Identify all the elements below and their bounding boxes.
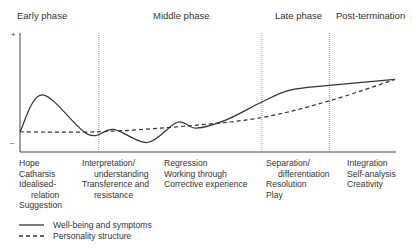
column-item: Integration (347, 158, 396, 169)
column-item: Catharsis (19, 169, 62, 180)
column-item: Creativity (347, 179, 396, 190)
column-middle-1: Interpretation/understandingTransference… (82, 158, 149, 200)
column-item: Self-analysis (347, 169, 396, 180)
column-item: Hope (19, 158, 62, 169)
column-item: differentiation (266, 169, 329, 180)
phase-label-early: Early phase (17, 10, 67, 21)
column-item: Regression (164, 158, 248, 169)
column-item: Play (266, 190, 329, 201)
legend-label-solid: Well-being and symptoms (53, 220, 152, 230)
column-item: relation (19, 190, 62, 201)
phase-label-late: Late phase (275, 10, 322, 21)
column-item: understanding (82, 169, 149, 180)
legend-item-dashed: Personality structure (19, 230, 152, 241)
column-item: Transference and (82, 179, 149, 190)
legend: Well-being and symptoms Personality stru… (19, 219, 152, 241)
legend-solid-line-icon (19, 222, 45, 228)
column-item: Corrective experience (164, 179, 248, 190)
column-item: Resolution (266, 179, 329, 190)
column-post-termination: IntegrationSelf-analysisCreativity (347, 158, 396, 190)
column-late: Separation/differentiationResolutionPlay (266, 158, 329, 200)
legend-dashed-line-icon (19, 233, 45, 239)
column-item: resistance (82, 190, 149, 201)
y-axis-plus-label: + (11, 30, 16, 39)
series-well-being-and-symptoms (20, 79, 395, 142)
legend-item-solid: Well-being and symptoms (19, 219, 152, 230)
column-middle-2: RegressionWorking throughCorrective expe… (164, 158, 248, 190)
legend-label-dashed: Personality structure (53, 231, 131, 241)
column-item: Working through (164, 169, 248, 180)
column-item: Idealised- (19, 179, 62, 190)
column-early: HopeCatharsisIdealised-relationSuggestio… (19, 158, 62, 211)
column-item: Suggestion (19, 200, 62, 211)
column-item: Interpretation/ (82, 158, 149, 169)
y-axis-minus-label: – (10, 138, 15, 147)
phase-label-middle: Middle phase (153, 10, 210, 21)
column-item: Separation/ (266, 158, 329, 169)
phase-label-post-termination: Post-termination (336, 10, 405, 21)
